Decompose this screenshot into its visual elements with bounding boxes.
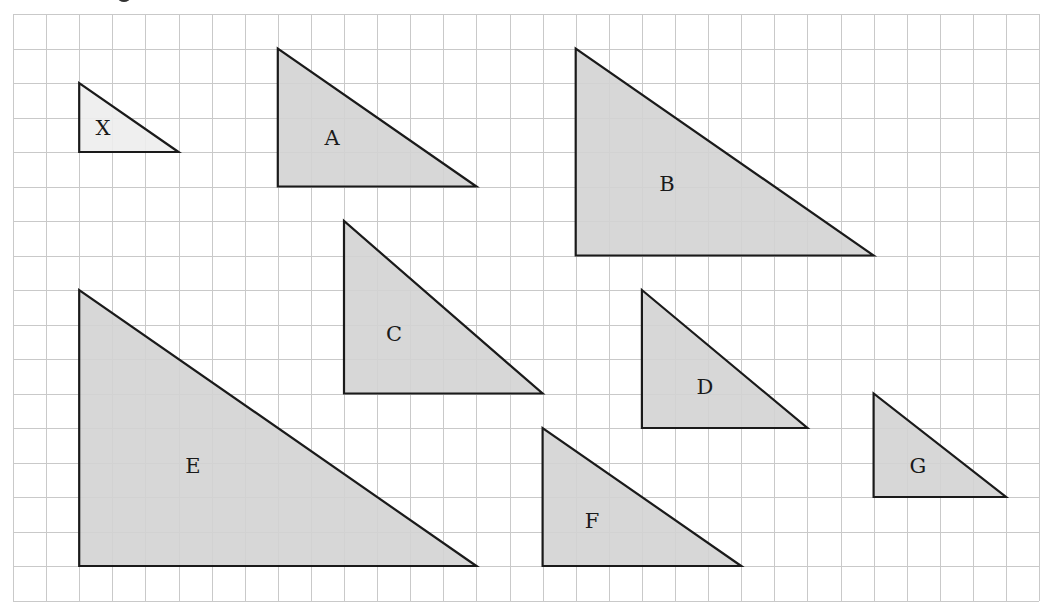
triangle-grid-diagram: XABCDEFG [0, 0, 1053, 607]
triangle-shape [79, 83, 178, 152]
triangles-layer: XABCDEFG [79, 49, 1006, 567]
triangle-label: G [910, 454, 927, 478]
triangle-label: E [185, 454, 200, 478]
triangle-shape [874, 394, 1006, 498]
triangle-x: X [79, 83, 178, 152]
triangle-label: C [386, 322, 402, 346]
triangle-g: G [874, 394, 1006, 498]
triangle-label: X [96, 116, 111, 140]
triangle-label: B [659, 172, 674, 196]
triangle-label: A [323, 126, 340, 150]
triangle-label: F [585, 509, 600, 533]
triangle-label: D [697, 375, 714, 399]
